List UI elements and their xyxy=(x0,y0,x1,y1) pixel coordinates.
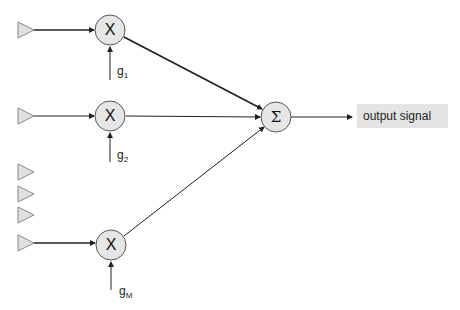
signal-flow-diagram xyxy=(0,0,460,310)
input-triangle-3 xyxy=(18,164,34,180)
input-triangle-5 xyxy=(18,207,34,223)
gain-label-M: gM xyxy=(119,284,132,300)
input-triangle-4 xyxy=(18,186,34,202)
mult-to-sum-1 xyxy=(124,37,262,109)
input-triangle-2 xyxy=(18,108,34,124)
input-triangle-M xyxy=(18,235,34,251)
input-triangle-1 xyxy=(18,22,34,38)
multiply-symbol-1: X xyxy=(95,15,125,45)
mult-to-sum-M xyxy=(124,127,264,236)
gain-label-2: g2 xyxy=(117,148,128,164)
input-triangles xyxy=(18,22,34,251)
sum-symbol: Σ xyxy=(261,102,291,132)
multiply-symbol-2: X xyxy=(95,101,125,131)
output-signal-label: output signal xyxy=(357,104,448,128)
gain-label-1: g1 xyxy=(117,64,128,80)
multiply-symbol-M: X xyxy=(96,230,126,260)
mult-to-sum-2 xyxy=(126,116,260,117)
